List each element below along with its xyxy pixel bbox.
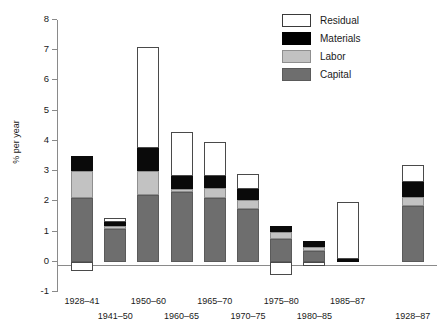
y-tick-mark — [52, 79, 57, 80]
legend-swatch-materials-icon — [282, 32, 311, 45]
x-category-label: 1975–80 — [264, 296, 299, 306]
bar-segment-capital — [71, 198, 93, 261]
y-tick-mark — [52, 200, 57, 201]
chart-legend: Residual Materials Labor Capital — [282, 12, 422, 84]
bar-segment-labor — [171, 189, 193, 192]
y-tick: 5 — [57, 110, 62, 111]
legend-label-materials: Materials — [320, 33, 361, 44]
y-tick: 3 — [57, 170, 62, 171]
x-category-label: 1985–87 — [330, 296, 365, 306]
bar-segment-labor — [104, 226, 126, 228]
bar-segment-capital — [402, 206, 424, 262]
y-tick-label: 6 — [44, 75, 49, 85]
bar-segment-labor — [237, 200, 259, 209]
bar-segment-labor — [71, 171, 93, 198]
bar-segment-materials — [171, 176, 193, 190]
x-category-label: 1980–85 — [297, 311, 332, 321]
bar-segment-residual — [104, 218, 126, 222]
bar-segment-materials — [402, 182, 424, 197]
y-tick-label: 0 — [44, 256, 49, 266]
y-tick-label: 5 — [44, 105, 49, 115]
y-tick-label: 3 — [44, 165, 49, 175]
legend-label-labor: Labor — [320, 51, 346, 62]
legend-label-capital: Capital — [320, 69, 351, 80]
y-tick: 7 — [57, 49, 62, 50]
y-tick: 2 — [57, 200, 62, 201]
y-tick-mark — [52, 170, 57, 171]
x-category-label: 1965–70 — [197, 296, 232, 306]
bar-segment-residual — [270, 262, 292, 276]
bar-segment-materials — [270, 226, 292, 232]
legend-swatch-capital-icon — [282, 68, 311, 81]
bar-segment-residual — [204, 142, 226, 175]
bar-segment-materials — [71, 156, 93, 171]
bar-segment-materials — [237, 189, 259, 200]
bar[interactable] — [137, 20, 159, 292]
y-tick-label: 8 — [44, 14, 49, 24]
y-tick-mark — [52, 49, 57, 50]
bar-segment-materials — [303, 241, 325, 247]
bar-segment-capital — [171, 192, 193, 262]
bar-segment-residual — [171, 132, 193, 176]
bar-segment-capital — [303, 251, 325, 262]
y-tick-mark — [52, 291, 57, 292]
bar-segment-residual — [137, 47, 159, 148]
y-tick-label: 4 — [44, 135, 49, 145]
y-tick-mark — [52, 140, 57, 141]
bar-segment-labor — [402, 197, 424, 206]
bar-segment-capital — [237, 209, 259, 262]
bar[interactable] — [171, 20, 193, 292]
bar-segment-residual — [71, 262, 93, 271]
bar-segment-capital — [270, 239, 292, 262]
stacked-bar-chart: % per year -1012345678 1928–411941–50195… — [0, 0, 439, 334]
bar-segment-capital — [204, 198, 226, 261]
bar-segment-materials — [137, 148, 159, 171]
y-tick: 6 — [57, 79, 62, 80]
y-tick-mark — [52, 231, 57, 232]
y-tick-label: 7 — [44, 44, 49, 54]
legend-swatch-labor-icon — [282, 50, 311, 63]
y-tick: 0 — [57, 261, 62, 262]
legend-item: Materials — [282, 30, 422, 46]
x-category-label: 1970–75 — [230, 311, 265, 321]
bar-segment-residual — [402, 165, 424, 182]
bar-segment-labor — [137, 171, 159, 195]
x-category-label: 1960–65 — [164, 311, 199, 321]
legend-label-residual: Residual — [320, 15, 359, 26]
bar[interactable] — [204, 20, 226, 292]
x-category-label: 1928–87 — [395, 311, 430, 321]
bar-segment-labor — [303, 247, 325, 252]
bar-segment-capital — [104, 229, 126, 262]
y-tick: 8 — [57, 19, 62, 20]
bar-segment-materials — [204, 176, 226, 188]
bar-segment-labor — [270, 232, 292, 240]
legend-swatch-residual-icon — [282, 14, 311, 27]
bar[interactable] — [104, 20, 126, 292]
bar-segment-residual — [337, 202, 359, 259]
bar[interactable] — [237, 20, 259, 292]
y-axis-label: % per year — [11, 102, 21, 182]
bar-segment-materials — [337, 259, 359, 261]
bar-segment-residual — [303, 262, 325, 267]
y-tick-label: 2 — [44, 196, 49, 206]
y-tick-mark — [52, 110, 57, 111]
x-category-label: 1928–41 — [64, 296, 99, 306]
y-axis-line — [57, 20, 58, 292]
y-tick-mark — [52, 261, 57, 262]
legend-item: Labor — [282, 48, 422, 64]
bar-segment-residual — [237, 174, 259, 189]
x-category-label: 1941–50 — [98, 311, 133, 321]
legend-item: Residual — [282, 12, 422, 28]
bar-segment-materials — [104, 222, 126, 227]
legend-item: Capital — [282, 66, 422, 82]
y-tick-mark — [52, 19, 57, 20]
bar-segment-labor — [204, 188, 226, 199]
y-tick: 4 — [57, 140, 62, 141]
x-category-label: 1950–60 — [131, 296, 166, 306]
y-tick-label: -1 — [41, 286, 49, 296]
bar[interactable] — [71, 20, 93, 292]
y-tick: 1 — [57, 231, 62, 232]
y-tick-label: 1 — [44, 226, 49, 236]
y-tick: -1 — [57, 291, 62, 292]
bar-segment-capital — [137, 195, 159, 261]
